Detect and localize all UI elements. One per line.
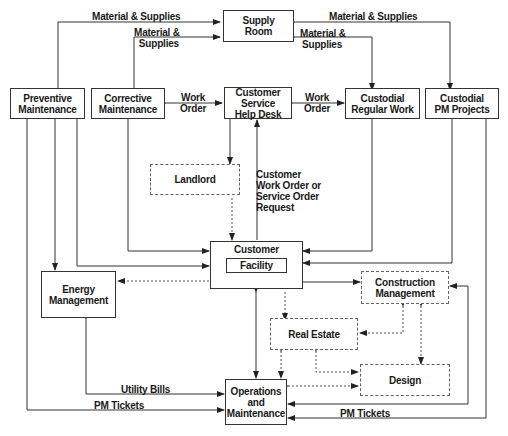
label-work-order-left-1: Work <box>180 92 206 103</box>
energy-management-node: EnergyManagement <box>41 271 116 318</box>
facility-inner-box: Facility <box>226 258 287 273</box>
custodial-pm-node: CustodialPM Projects <box>425 88 499 119</box>
corrective-maintenance-node: CorrectiveMaintenance <box>91 88 165 119</box>
construction-label-2: Management <box>375 288 435 299</box>
corrective-label-1: Corrective <box>99 93 157 104</box>
label-work-order-right-1: Work <box>304 92 330 103</box>
supply-room-label-2: Room <box>242 26 274 37</box>
label-pm-tickets-left: PM Tickets <box>94 400 144 411</box>
label-work-order-right-2: Order <box>304 103 330 114</box>
help-desk-label-2: Service <box>235 98 282 109</box>
om-label-3: Maintenance <box>227 408 285 419</box>
energy-label-2: Management <box>49 295 108 306</box>
help-desk-label-3: Help Desk <box>235 109 282 120</box>
custodial-pm-label-2: PM Projects <box>434 104 489 115</box>
label-material-supplies-mid-left: Material & Supplies <box>134 27 180 49</box>
real-estate-node: Real Estate <box>270 318 358 350</box>
design-label: Design <box>389 375 421 386</box>
custodial-regular-node: CustodialRegular Work <box>345 88 420 119</box>
preventive-label-2: Maintenance <box>18 104 76 115</box>
preventive-label-1: Preventive <box>18 93 76 104</box>
customer-facility-node: Customer Facility <box>210 241 303 289</box>
om-label-1: Operations <box>227 386 285 397</box>
om-label-2: and <box>227 397 285 408</box>
custodial-pm-label-1: Custodial <box>434 93 489 104</box>
label-customer-request-4: Request <box>256 202 321 213</box>
landlord-node: Landlord <box>150 164 240 195</box>
label-utility-bills: Utility Bills <box>121 384 170 395</box>
label-work-order-right: Work Order <box>304 92 330 114</box>
supply-room-node: SupplyRoom <box>223 10 294 42</box>
landlord-label: Landlord <box>174 174 215 185</box>
label-pm-tickets-right: PM Tickets <box>340 408 390 419</box>
label-material-supplies-top-right: Material & Supplies <box>329 11 417 22</box>
custodial-regular-label-2: Regular Work <box>351 104 413 115</box>
label-material-supplies-mid-right-1: Material & <box>300 28 346 39</box>
label-material-supplies-mid-right-2: Supplies <box>300 39 346 50</box>
label-material-supplies-mid-right: Material & Supplies <box>300 28 346 50</box>
label-material-supplies-top-left: Material & Supplies <box>92 11 180 22</box>
label-customer-request-2: Work Order or <box>256 180 321 191</box>
facility-inner-label: Facility <box>240 260 273 271</box>
design-node: Design <box>360 364 450 396</box>
real-estate-label: Real Estate <box>288 329 340 340</box>
energy-label-1: Energy <box>49 284 108 295</box>
construction-label-1: Construction <box>375 277 435 288</box>
label-customer-request: Customer Work Order or Service Order Req… <box>256 169 321 213</box>
label-material-supplies-mid-left-2: Supplies <box>134 38 180 49</box>
custodial-regular-label-1: Custodial <box>351 93 413 104</box>
help-desk-node: CustomerServiceHelp Desk <box>224 87 292 119</box>
corrective-label-2: Maintenance <box>99 104 157 115</box>
label-customer-request-3: Service Order <box>256 191 321 202</box>
label-work-order-left-2: Order <box>180 103 206 114</box>
supply-room-label-1: Supply <box>242 15 274 26</box>
operations-maintenance-node: OperationsandMaintenance <box>225 379 287 425</box>
customer-facility-label: Customer <box>234 244 279 255</box>
label-work-order-left: Work Order <box>180 92 206 114</box>
help-desk-label-1: Customer <box>235 87 282 98</box>
label-customer-request-1: Customer <box>256 169 321 180</box>
construction-management-node: ConstructionManagement <box>361 271 449 304</box>
preventive-maintenance-node: PreventiveMaintenance <box>10 88 85 119</box>
label-material-supplies-mid-left-1: Material & <box>134 27 180 38</box>
